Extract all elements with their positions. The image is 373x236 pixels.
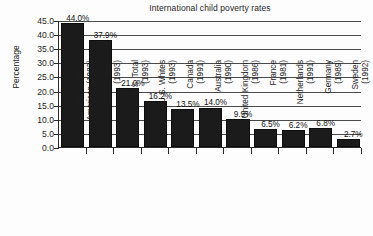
y-axis-tick-label: 35.0 [10, 44, 54, 54]
x-axis-label-line-2: (1991) [306, 60, 316, 156]
x-axis-label-line-1: U.S. African [76, 60, 85, 103]
y-axis-tick-label: 20.0 [10, 87, 54, 97]
y-axis-tick-label: 10.0 [10, 115, 54, 125]
x-axis-tick-label: Canada(1991) [186, 60, 205, 156]
x-axis-tick-label: U.S. AfricanAmerican (1993) [76, 60, 95, 156]
y-axis-tick-mark [54, 148, 59, 149]
x-axis-label-line-2: (1993) [140, 60, 150, 156]
x-axis-tick-label: U.S. Latino(1993) [103, 60, 122, 156]
y-axis-tick-label: 45.0 [10, 16, 54, 26]
y-axis-tick-label: 30.0 [10, 58, 54, 68]
x-axis-tick-label: U.S. Whites(1993) [158, 60, 177, 156]
x-axis-label-line-2: (1981) [278, 60, 288, 156]
x-axis-tick-label: Germany(1989) [324, 60, 343, 156]
x-axis-label-line-2: (1993) [113, 60, 123, 156]
x-axis-tick-label: France(1981) [269, 60, 288, 156]
x-axis-label-line-1: France [269, 60, 278, 85]
y-axis-tick-label: 25.0 [10, 72, 54, 82]
x-axis-label-line-1: Netherlands [296, 60, 305, 104]
x-axis-tick-label: Sweden(1992) [351, 60, 370, 156]
x-axis-label-line-2: (1992) [361, 60, 371, 156]
x-axis-tick-label: U.S. Total(1993) [131, 60, 150, 156]
x-axis-label-line-1: U.S. Whites [158, 60, 167, 103]
x-axis-label-line-2: (1991) [196, 60, 206, 156]
bar-chart: International child poverty rates Percen… [0, 0, 373, 236]
x-axis-label-line-1: United Kingdom [241, 60, 250, 118]
x-axis-tick-label: Netherlands(1991) [296, 60, 315, 156]
x-axis-label-line-1: Germany [324, 60, 333, 94]
x-axis-label-line-1: Sweden [351, 60, 360, 90]
x-axis-tick-label: United Kingdom(1986) [241, 60, 260, 156]
x-axis-label-line-2: American (1993) [85, 60, 95, 156]
x-axis-label-line-1: U.S. Total [131, 60, 140, 95]
x-axis-label-line-2: (1989) [333, 60, 343, 156]
y-axis-tick-label: 15.0 [10, 101, 54, 111]
y-axis-tick-label: 5.0 [10, 129, 54, 139]
x-axis-label-line-2: (1990) [223, 60, 233, 156]
y-axis-tick-label: 40.0 [10, 30, 54, 40]
x-axis-label-line-1: Australia [214, 60, 223, 92]
x-axis-label-line-1: Canada [186, 60, 195, 89]
x-axis-label-line-1: U.S. Latino [103, 60, 112, 101]
chart-title: International child poverty rates [60, 3, 360, 13]
y-axis-tick-label: 0.0 [10, 143, 54, 153]
x-axis-tick-label: Australia(1990) [214, 60, 233, 156]
bar-value-label: 37.9% [82, 31, 128, 40]
x-axis-label-line-2: (1986) [251, 60, 261, 156]
bar-value-label: 44.0% [55, 14, 101, 23]
x-axis-label-line-2: (1993) [168, 60, 178, 156]
